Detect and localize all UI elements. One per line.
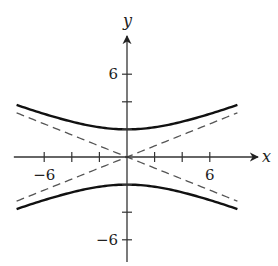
x-tick-label: 6 [205, 166, 215, 184]
x-axis-label: x [262, 147, 271, 166]
x-tick-label: −6 [33, 166, 55, 184]
hyperbola-plot: −666−6 x y [0, 0, 278, 266]
y-tick-label: 6 [108, 65, 118, 83]
chart: −666−6 x y [0, 0, 278, 266]
y-axis-label: y [122, 11, 133, 30]
y-tick-label: −6 [96, 231, 118, 249]
